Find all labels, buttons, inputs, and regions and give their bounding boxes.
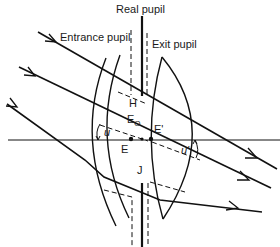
label-J: J [137, 164, 143, 176]
label-angle-u-prime: u' [181, 144, 190, 156]
label-exit-pupil: Exit pupil [152, 38, 197, 50]
ray-top [38, 32, 277, 169]
optical-diagram: Real pupil Entrance pupil Exit pupil H E… [0, 0, 280, 247]
label-E-prime: E' [154, 123, 163, 135]
point-E-prime-dot [149, 137, 153, 141]
point-E-dot [129, 137, 133, 141]
label-E0: EO [127, 113, 141, 128]
ray-middle [19, 67, 271, 188]
point-E0-dot [140, 137, 143, 140]
label-H: H [129, 97, 137, 109]
angle-u-arrow [96, 136, 100, 140]
label-E: E [121, 143, 128, 155]
label-angle-u: u [104, 126, 110, 138]
convex-lens [151, 57, 192, 219]
angle-u-prime-arrow [193, 140, 197, 144]
label-real-pupil: Real pupil [116, 3, 165, 15]
label-entrance-pupil: Entrance pupil [60, 31, 130, 43]
